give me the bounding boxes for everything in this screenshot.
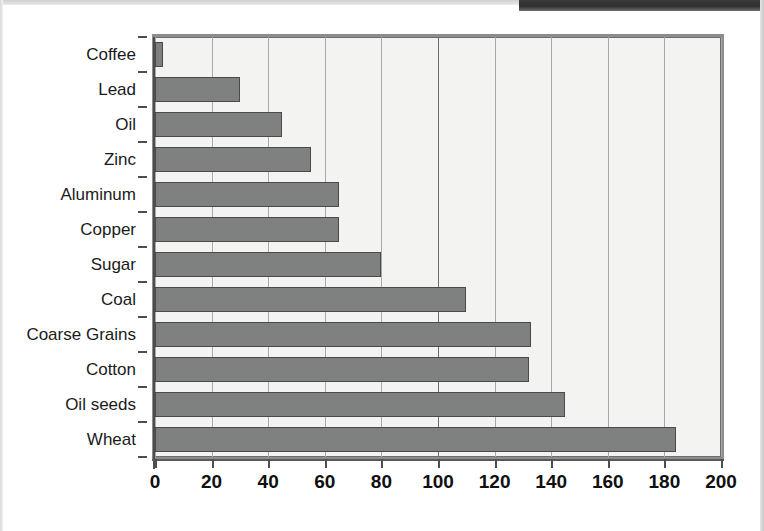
value-tick-60: [325, 459, 327, 468]
category-label-cotton: Cotton: [86, 360, 136, 379]
category-tick: [138, 141, 147, 143]
category-tick: [138, 316, 147, 318]
category-axis-line: [153, 37, 155, 469]
screenshot-page: CoffeeLeadOilZincAluminumCopperSugarCoal…: [0, 0, 764, 531]
bar-row: [155, 42, 721, 67]
value-tick-0: [155, 459, 157, 468]
value-tick-40: [268, 459, 270, 468]
bar-row: [155, 427, 721, 452]
category-label-oil: Oil: [115, 115, 136, 134]
bar-cotton: [155, 357, 529, 382]
gridline-200: [721, 37, 722, 457]
value-tick-label-180: 180: [649, 471, 681, 493]
category-label-lead: Lead: [98, 80, 136, 99]
category-label-wheat: Wheat: [87, 430, 136, 449]
value-tick-160: [608, 459, 610, 468]
bar-oil-seeds: [155, 392, 565, 417]
bar-zinc: [155, 147, 311, 172]
category-tick: [138, 386, 147, 388]
category-label-coarse-grains: Coarse Grains: [26, 325, 136, 344]
category-label-coal: Coal: [101, 290, 136, 309]
bar-row: [155, 322, 721, 347]
category-label-coffee: Coffee: [86, 45, 136, 64]
bar-lead: [155, 77, 240, 102]
value-tick-label-80: 80: [371, 471, 392, 493]
category-tick: [138, 106, 147, 108]
bar-copper: [155, 217, 339, 242]
value-tick-label-0: 0: [150, 471, 161, 493]
value-tick-label-20: 20: [201, 471, 222, 493]
bar-aluminum: [155, 182, 339, 207]
category-label-copper: Copper: [80, 220, 136, 239]
value-tick-label-200: 200: [705, 471, 737, 493]
bar-row: [155, 77, 721, 102]
bar-row: [155, 182, 721, 207]
bar-wheat: [155, 427, 676, 452]
category-label-zinc: Zinc: [104, 150, 136, 169]
bar-row: [155, 287, 721, 312]
category-tick: [138, 421, 147, 423]
category-label-oil-seeds: Oil seeds: [65, 395, 136, 414]
value-tick-180: [664, 459, 666, 468]
bar-series: [155, 37, 721, 457]
category-tick: [138, 351, 147, 353]
value-tick-label-140: 140: [535, 471, 567, 493]
bar-oil: [155, 112, 282, 137]
bar-sugar: [155, 252, 381, 277]
value-tick-120: [495, 459, 497, 468]
plot-area: [155, 37, 721, 457]
value-tick-20: [212, 459, 214, 468]
value-tick-label-60: 60: [314, 471, 335, 493]
category-tick: [138, 176, 147, 178]
category-tick: [138, 456, 147, 458]
value-tick-label-40: 40: [258, 471, 279, 493]
value-tick-label-100: 100: [422, 471, 454, 493]
bar-row: [155, 147, 721, 172]
bar-coal: [155, 287, 466, 312]
value-tick-80: [381, 459, 383, 468]
category-tick: [138, 71, 147, 73]
value-tick-label-120: 120: [479, 471, 511, 493]
bar-row: [155, 217, 721, 242]
bar-row: [155, 112, 721, 137]
bar-chart: CoffeeLeadOilZincAluminumCopperSugarCoal…: [0, 0, 764, 531]
category-label-aluminum: Aluminum: [60, 185, 136, 204]
category-tick: [138, 246, 147, 248]
value-tick-200: [721, 459, 723, 468]
bar-row: [155, 252, 721, 277]
category-label-sugar: Sugar: [91, 255, 136, 274]
value-tick-140: [551, 459, 553, 468]
category-axis-labels: CoffeeLeadOilZincAluminumCopperSugarCoal…: [0, 37, 147, 457]
value-tick-100: [438, 459, 440, 468]
value-tick-label-160: 160: [592, 471, 624, 493]
bar-coarse-grains: [155, 322, 531, 347]
bar-coffee: [155, 42, 163, 67]
bar-row: [155, 357, 721, 382]
category-tick: [138, 36, 147, 38]
category-tick: [138, 211, 147, 213]
bar-row: [155, 392, 721, 417]
category-tick: [138, 281, 147, 283]
